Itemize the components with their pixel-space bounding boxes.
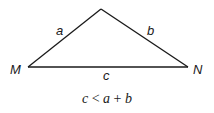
formula-less-than: < [92, 91, 100, 106]
formula-c: c [82, 91, 88, 106]
formula-b: b [125, 91, 132, 106]
inequality-formula: c < a + b [0, 91, 214, 107]
side-label-c: c [103, 69, 110, 82]
formula-plus: + [114, 91, 122, 106]
side-a-line [28, 9, 101, 67]
formula-a: a [103, 91, 110, 106]
side-label-b: b [147, 24, 154, 37]
triangle-diagram: M N a b c c < a + b [0, 0, 214, 113]
side-b-line [101, 9, 188, 67]
vertex-label-m: M [10, 63, 21, 76]
side-label-a: a [56, 24, 63, 37]
vertex-label-n: N [193, 63, 202, 76]
